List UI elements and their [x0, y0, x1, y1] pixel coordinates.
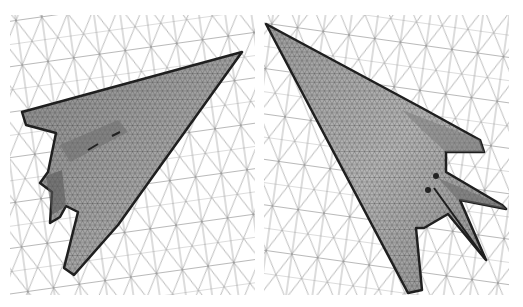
- left-mesh-diagram: [0, 0, 258, 307]
- right-mesh-diagram: [262, 0, 523, 307]
- right-mesh-panel: [262, 0, 523, 307]
- left-mesh-panel: [0, 0, 258, 307]
